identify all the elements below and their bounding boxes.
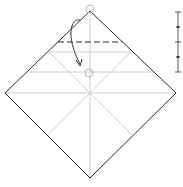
origami-diagram [0,0,183,187]
crease-lines [5,11,176,178]
paper-outline [5,11,176,178]
scale-bar [175,12,181,72]
target-point-marker-icon [85,69,93,77]
